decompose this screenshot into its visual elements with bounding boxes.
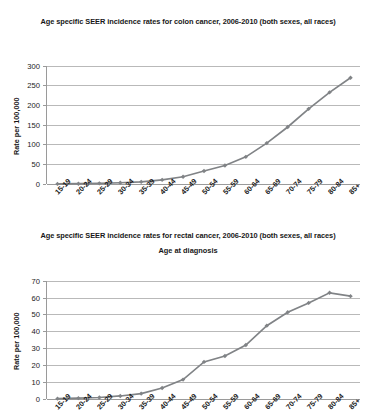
rectal-y-tick-label: 30 bbox=[12, 344, 40, 353]
rectal-data-point bbox=[348, 294, 352, 298]
rectal-y-tick-label: 20 bbox=[12, 361, 40, 370]
rectal-y-tick-label: 40 bbox=[12, 327, 40, 336]
colon-y-tick-label: 150 bbox=[12, 120, 40, 129]
colon-y-tickmark bbox=[43, 144, 46, 145]
colon-y-tick-label: 0 bbox=[12, 179, 40, 188]
colon-data-point bbox=[202, 169, 206, 173]
rectal-series-line bbox=[57, 293, 350, 399]
rectal-y-tickmark bbox=[43, 399, 46, 400]
rectal-y-tick-label: 0 bbox=[12, 394, 40, 403]
rectal-y-tickmark bbox=[43, 298, 46, 299]
colon-series bbox=[47, 66, 361, 184]
rectal-cancer-chart: Age specific SEER incidence rates for re… bbox=[0, 215, 376, 415]
colon-y-tickmark bbox=[43, 125, 46, 126]
rectal-y-tick-label: 60 bbox=[12, 293, 40, 302]
colon-y-tickmark bbox=[43, 105, 46, 106]
colon-y-tick-label: 50 bbox=[12, 160, 40, 169]
colon-y-tickmark bbox=[43, 164, 46, 165]
rectal-y-tick-label: 50 bbox=[12, 310, 40, 319]
colon-y-tickmark bbox=[43, 184, 46, 185]
rectal-y-tickmark bbox=[43, 382, 46, 383]
colon-y-tick-label: 300 bbox=[12, 61, 40, 70]
colon-y-tickmark bbox=[43, 85, 46, 86]
rectal-y-tickmark bbox=[43, 281, 46, 282]
colon-data-point bbox=[160, 177, 164, 181]
rectal-y-tickmark bbox=[43, 348, 46, 349]
colon-y-tick-label: 250 bbox=[12, 81, 40, 90]
colon-chart-title: Age specific SEER incidence rates for co… bbox=[0, 0, 376, 28]
colon-data-point bbox=[181, 174, 185, 178]
rectal-y-tick-label: 10 bbox=[12, 377, 40, 386]
rectal-series bbox=[47, 281, 361, 399]
colon-plot bbox=[46, 66, 360, 184]
colon-cancer-chart: Age specific SEER incidence rates for co… bbox=[0, 0, 376, 215]
colon-y-tickmark bbox=[43, 66, 46, 67]
colon-series-line bbox=[57, 78, 350, 184]
colon-y-tick-label: 100 bbox=[12, 140, 40, 149]
rectal-y-tickmark bbox=[43, 331, 46, 332]
rectal-data-point bbox=[139, 391, 143, 395]
rectal-y-tickmark bbox=[43, 314, 46, 315]
rectal-chart-title: Age specific SEER incidence rates for re… bbox=[0, 215, 376, 242]
rectal-y-tickmark bbox=[43, 365, 46, 366]
rectal-y-tick-label: 70 bbox=[12, 276, 40, 285]
colon-y-tick-label: 200 bbox=[12, 101, 40, 110]
rectal-plot bbox=[46, 281, 360, 399]
